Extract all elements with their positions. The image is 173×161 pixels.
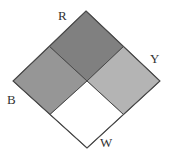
four-square-diamond-diagram (0, 0, 173, 161)
vertex-label-r: R (58, 9, 67, 22)
vertex-label-b: B (7, 93, 16, 106)
vertex-label-y: Y (150, 52, 159, 65)
vertex-label-w: W (100, 136, 112, 149)
figure-container: R Y B W (0, 0, 173, 161)
